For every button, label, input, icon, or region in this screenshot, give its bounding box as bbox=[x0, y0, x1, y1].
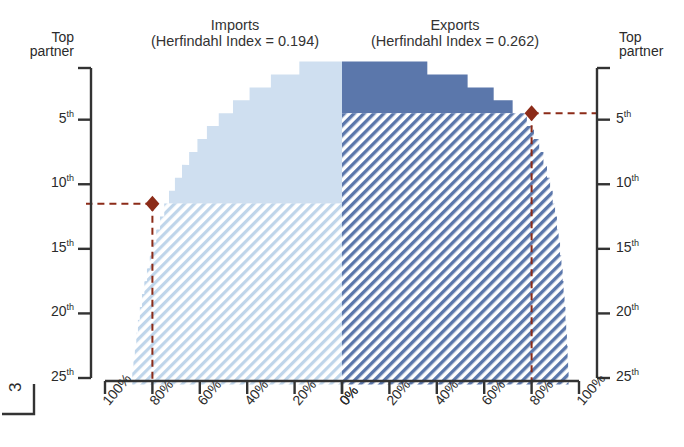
y-tick-ordinal-suffix: th bbox=[632, 302, 640, 312]
y-tick-value: 5 bbox=[616, 109, 624, 125]
y-tick-value: 25 bbox=[616, 368, 632, 384]
y-tick-value: 20 bbox=[616, 303, 632, 319]
y-tick-ordinal-suffix: th bbox=[66, 238, 74, 248]
exports-area-hatched bbox=[342, 113, 569, 384]
y-tick-ordinal-suffix: th bbox=[632, 367, 640, 377]
y-tick-ordinal-suffix: th bbox=[624, 109, 632, 119]
y-axis-title-line1: Top bbox=[10, 30, 74, 44]
y-tick-label-right-15: 15th bbox=[616, 239, 639, 254]
y-tick-value: 15 bbox=[51, 238, 67, 254]
y-tick-ordinal-suffix: th bbox=[632, 173, 640, 183]
y-tick-ordinal-suffix: th bbox=[66, 173, 74, 183]
y-tick-label-left-20: 20th bbox=[24, 303, 74, 318]
page-number: 3 bbox=[6, 383, 26, 392]
y-axis-title-line2: partner bbox=[619, 44, 683, 58]
y-tick-value: 25 bbox=[51, 368, 67, 384]
y-tick-label-right-25: 25th bbox=[616, 368, 639, 383]
y-tick-ordinal-suffix: th bbox=[66, 302, 74, 312]
chart-plot-area bbox=[0, 0, 684, 447]
y-tick-label-left-10: 10th bbox=[24, 174, 74, 189]
y-tick-label-right-10: 10th bbox=[616, 174, 639, 189]
y-axis-title-right: Toppartner bbox=[619, 30, 683, 58]
series-layer bbox=[132, 62, 568, 385]
imports-threshold-marker bbox=[145, 196, 159, 212]
y-tick-ordinal-suffix: th bbox=[632, 238, 640, 248]
chart-canvas: Imports (Herfindahl Index = 0.194) Expor… bbox=[0, 0, 684, 447]
y-tick-label-right-20: 20th bbox=[616, 303, 639, 318]
y-tick-value: 15 bbox=[616, 238, 632, 254]
y-tick-ordinal-suffix: th bbox=[66, 367, 74, 377]
y-axis-title-line1: Top bbox=[619, 30, 683, 44]
exports-area-solid bbox=[342, 62, 513, 114]
y-tick-label-left-25: 25th bbox=[24, 368, 74, 383]
imports-area-hatched bbox=[132, 204, 342, 385]
y-tick-label-right-5: 5th bbox=[616, 110, 631, 125]
y-tick-value: 20 bbox=[51, 303, 67, 319]
y-tick-label-left-5: 5th bbox=[24, 110, 74, 125]
y-tick-value: 10 bbox=[616, 174, 632, 190]
y-axis-title-line2: partner bbox=[10, 44, 74, 58]
y-tick-ordinal-suffix: th bbox=[66, 109, 74, 119]
y-tick-value: 10 bbox=[51, 174, 67, 190]
imports-area-solid bbox=[169, 62, 342, 204]
y-tick-label-left-15: 15th bbox=[24, 239, 74, 254]
y-axis-title-left: Toppartner bbox=[10, 30, 74, 58]
